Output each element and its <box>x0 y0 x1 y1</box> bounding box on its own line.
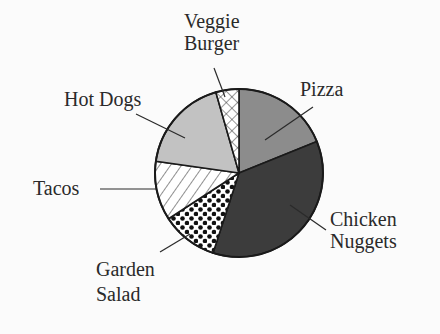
label-chicken-nuggets-line1: Chicken <box>330 209 397 230</box>
label-pizza: Pizza <box>300 79 343 100</box>
leader-line-garden-salad <box>160 234 190 252</box>
label-hot-dogs: Hot Dogs <box>64 89 141 110</box>
label-tacos: Tacos <box>33 178 79 199</box>
label-garden-salad-line1: Garden <box>96 259 155 280</box>
label-veggie-burger-line2: Burger <box>184 33 239 54</box>
label-veggie-burger-line1: Veggie <box>184 11 240 32</box>
label-chicken-nuggets-line2: Nuggets <box>330 231 397 252</box>
label-garden-salad-line2: Salad <box>96 284 140 305</box>
